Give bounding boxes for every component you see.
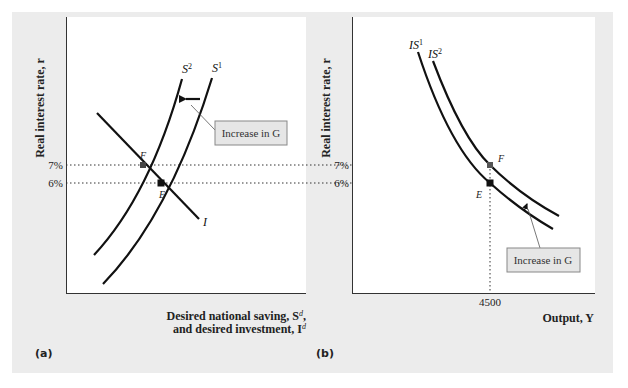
label-s2: S2 (182, 62, 192, 76)
callout-text-b: Increase in G (514, 254, 573, 266)
callout-leader-b (528, 209, 540, 248)
point-e-a (158, 180, 165, 187)
curve-is1 (418, 52, 553, 229)
x-axis-label-a-line2: and desired investment, Id (173, 322, 307, 336)
point-e-b (487, 180, 494, 187)
y-tick-7pct-a: 7% (48, 159, 63, 171)
panel-tag-a: (a) (35, 347, 52, 360)
label-point-e-a: E (158, 189, 165, 200)
y-axis-label-b: Real interest rate, r (319, 57, 333, 157)
label-point-f-b: F (497, 153, 505, 164)
y-tick-6pct-a: 6% (48, 177, 63, 189)
curve-is2 (433, 61, 559, 216)
panel-tag-b: (b) (316, 347, 334, 360)
callout-text-a: Increase in G (222, 127, 281, 139)
label-s1: S1 (212, 61, 222, 75)
x-axis-label-a-line1: Desired national saving, Sd, (167, 309, 306, 323)
point-f-a (140, 162, 146, 168)
curve-i (97, 113, 199, 219)
label-point-f-a: F (139, 150, 147, 161)
label-point-e-b: E (475, 189, 482, 200)
point-f-b (487, 162, 493, 168)
shift-arrow-up-icon (524, 204, 527, 211)
label-i: I (202, 215, 208, 229)
label-is2: IS2 (427, 47, 442, 61)
curve-s2 (94, 79, 182, 255)
y-axis-label-a: Real interest rate, r (33, 57, 47, 157)
label-is1: IS1 (408, 38, 423, 52)
panel-a: Real interest rate, r 7% 6% S2 S1 I Incr… (33, 17, 352, 360)
panel-b: Real interest rate, r 7% 6% IS1 IS2 Incr… (316, 17, 595, 360)
x-axis-label-b: Output, Y (542, 311, 594, 325)
figure-svg: Real interest rate, r 7% 6% S2 S1 I Incr… (0, 0, 628, 388)
x-tick-4500: 4500 (479, 296, 502, 308)
y-tick-6pct-b: 6% (334, 177, 349, 189)
y-tick-7pct-b: 7% (334, 159, 349, 171)
